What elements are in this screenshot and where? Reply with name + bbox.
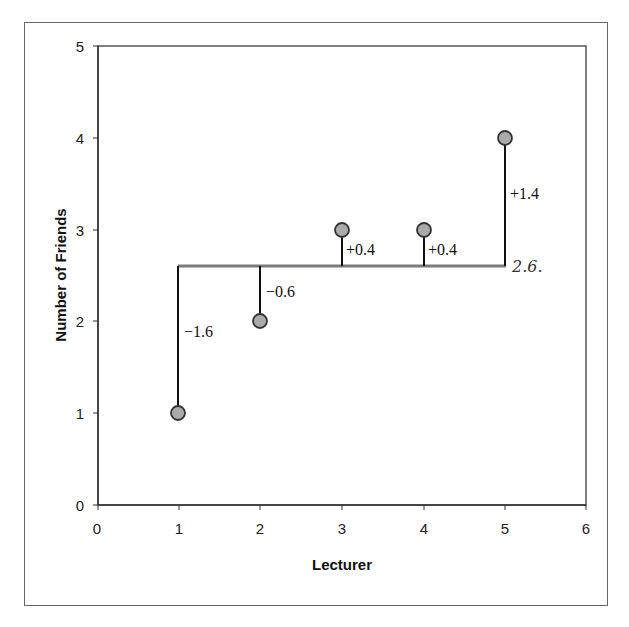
deviation-label: +0.4 (428, 241, 457, 258)
x-tick-label: 4 (420, 520, 428, 537)
chart-canvas: 0 1 2 3 4 5 0 1 2 3 4 5 6 Lecturer Numbe… (0, 0, 629, 627)
y-tick-label: 4 (76, 130, 84, 147)
x-tick-label: 0 (93, 520, 101, 537)
x-tick-labels: 0 1 2 3 4 5 6 (93, 520, 590, 537)
y-tick-label: 2 (76, 313, 84, 330)
y-tick-label: 0 (76, 497, 84, 514)
data-point (417, 223, 431, 237)
x-tick-label: 3 (338, 520, 346, 537)
deviation-lines (178, 138, 505, 413)
mean-annotation: 2.6. (511, 257, 543, 276)
data-point (253, 314, 267, 328)
y-tick-label: 5 (76, 38, 84, 55)
data-point (335, 223, 349, 237)
deviation-label: −1.6 (184, 323, 213, 340)
x-tick-label: 5 (501, 520, 509, 537)
y-axis-title: Number of Friends (52, 208, 69, 341)
deviation-label: +0.4 (346, 241, 375, 258)
deviation-label: +1.4 (510, 185, 539, 202)
x-tick-label: 6 (582, 520, 590, 537)
data-points (171, 131, 512, 420)
data-point (171, 406, 185, 420)
x-tick-label: 1 (175, 520, 183, 537)
y-tick-labels: 0 1 2 3 4 5 (76, 38, 84, 514)
y-tick-label: 3 (76, 222, 84, 239)
y-tick-label: 1 (76, 405, 84, 422)
data-point (498, 131, 512, 145)
x-tick-label: 2 (256, 520, 264, 537)
deviation-label: −0.6 (266, 283, 295, 300)
x-axis-title: Lecturer (312, 556, 372, 573)
